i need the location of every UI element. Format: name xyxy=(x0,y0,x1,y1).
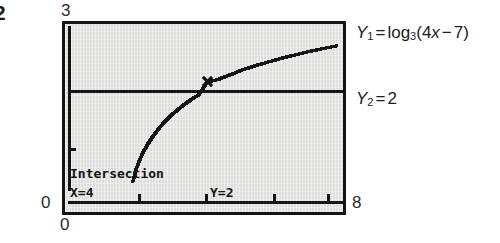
legend-equation-y1: Y1=log3(4x−7) xyxy=(356,24,469,42)
y1-variable: x xyxy=(431,23,440,42)
figure-container: 2 3 0 0 8 Intersection X=4 xyxy=(0,0,500,243)
calculator-plot-area: Intersection X=4 Y=2 xyxy=(65,24,343,212)
x-axis-min-label: 0 xyxy=(60,216,69,233)
y2-constant-line xyxy=(68,90,343,93)
intersection-readout-title: Intersection xyxy=(70,167,164,180)
figure-number: 2 xyxy=(0,1,5,25)
y2-equals: = xyxy=(373,89,387,108)
y2-value: 2 xyxy=(387,89,396,108)
x-axis-max-label: 8 xyxy=(352,194,361,211)
intersection-y-value: Y=2 xyxy=(210,186,233,199)
y-axis-max-label: 3 xyxy=(61,2,70,19)
legend-equation-y2: Y2=2 xyxy=(356,90,397,108)
y1-minus: − xyxy=(440,23,454,42)
y1-equals: = xyxy=(373,23,387,42)
graphing-calculator-screen: Intersection X=4 Y=2 xyxy=(62,21,346,215)
x-axis-tick xyxy=(138,194,141,201)
y-axis-min-label: 0 xyxy=(41,194,50,211)
y1-symbol: Y xyxy=(356,23,367,42)
intersection-cursor-icon xyxy=(201,75,214,88)
x-axis-tick xyxy=(273,194,276,201)
intersection-x-value: X=4 xyxy=(70,186,93,199)
x-axis-tick xyxy=(205,194,208,201)
y1-constant: 7 xyxy=(454,23,463,42)
x-axis-tick xyxy=(327,194,330,201)
y1-coefficient: 4 xyxy=(422,23,431,42)
y-axis-tick xyxy=(68,148,76,151)
y1-log: log xyxy=(387,23,410,42)
curve-pixel xyxy=(335,44,338,47)
y1-close-paren: ) xyxy=(463,23,469,42)
y2-symbol: Y xyxy=(356,89,367,108)
x-axis-line xyxy=(68,201,343,204)
